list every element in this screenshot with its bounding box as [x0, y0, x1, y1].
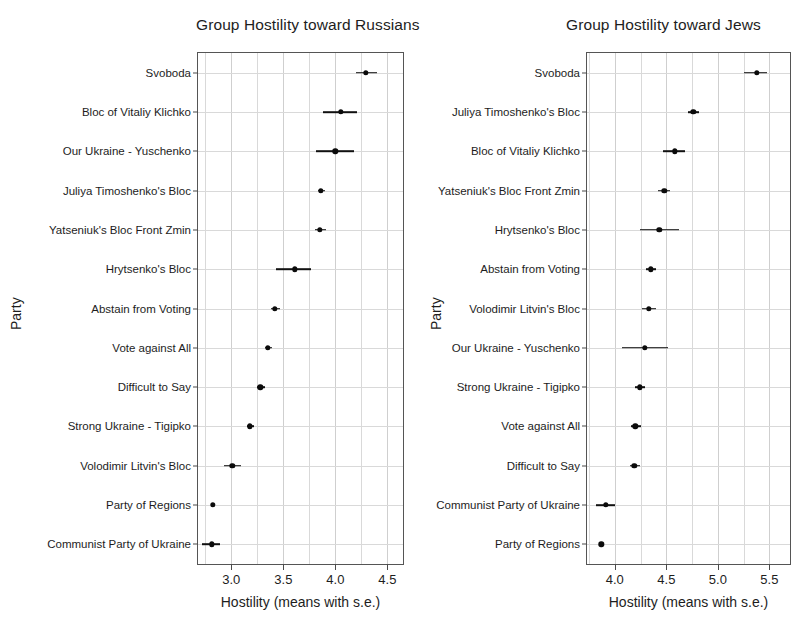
- x-axis-tick-label: 4.5: [378, 572, 396, 587]
- data-point: [209, 542, 214, 547]
- y-axis-tick: [193, 544, 198, 545]
- y-axis-tick: [582, 387, 587, 388]
- y-axis-tick-label: Party of Regions: [106, 499, 191, 511]
- x-axis-tick-label: 4.0: [326, 572, 344, 587]
- gridline-horizontal: [587, 466, 790, 467]
- y-axis-tick: [582, 426, 587, 427]
- y-axis-tick: [193, 308, 198, 309]
- x-axis-tick: [666, 564, 667, 570]
- y-axis-tick-label: Hrytsenko's Bloc: [106, 263, 191, 275]
- data-point: [333, 149, 338, 154]
- x-axis-tick-label: 3.5: [274, 572, 292, 587]
- y-axis-tick: [582, 111, 587, 112]
- gridline-horizontal: [587, 426, 790, 427]
- y-axis-tick: [582, 269, 587, 270]
- x-axis-tick: [283, 564, 284, 570]
- y-axis-tick: [582, 229, 587, 230]
- plot-area: Hostility (means with s.e.) SvobodaBloc …: [197, 52, 404, 565]
- data-point: [318, 188, 323, 193]
- y-axis-tick-label: Svoboda: [146, 67, 191, 79]
- gridline-horizontal: [587, 387, 790, 388]
- y-axis-tick: [582, 190, 587, 191]
- y-axis-tick: [193, 387, 198, 388]
- data-point: [690, 109, 695, 114]
- y-axis-tick-label: Strong Ukraine - Tigipko: [68, 420, 191, 432]
- y-axis-tick: [582, 505, 587, 506]
- gridline-horizontal: [587, 269, 790, 270]
- y-axis-tick-label: Hrytsenko's Bloc: [495, 224, 580, 236]
- gridline-horizontal: [198, 426, 403, 427]
- panel-title: Group Hostility toward Russians: [196, 16, 420, 34]
- y-axis-tick-label: Abstain from Voting: [91, 303, 191, 315]
- y-axis-tick-label: Yatseniuk's Bloc Front Zmin: [438, 185, 580, 197]
- y-axis-tick-label: Yatseniuk's Bloc Front Zmin: [49, 224, 191, 236]
- x-axis-title: Hostility (means with s.e.): [587, 594, 790, 610]
- x-axis-tick: [615, 564, 616, 570]
- data-point: [599, 542, 604, 547]
- data-point: [632, 463, 637, 468]
- data-point: [292, 266, 297, 271]
- data-point: [272, 306, 277, 311]
- y-axis-tick-label: Strong Ukraine - Tigipko: [457, 381, 580, 393]
- gridline-horizontal: [587, 348, 790, 349]
- x-axis-tick-label: 4.0: [606, 572, 624, 587]
- y-axis-title: Party: [428, 297, 444, 330]
- y-axis-tick-label: Svoboda: [535, 67, 580, 79]
- y-axis-tick-label: Communist Party of Ukraine: [436, 499, 580, 511]
- y-axis-tick-label: Difficult to Say: [118, 381, 191, 393]
- y-axis-tick: [193, 229, 198, 230]
- data-point: [265, 345, 270, 350]
- x-axis-tick-label: 3.0: [222, 572, 240, 587]
- gridline-horizontal: [587, 230, 790, 231]
- gridline-horizontal: [198, 230, 403, 231]
- y-axis-tick: [193, 111, 198, 112]
- y-axis-tick-label: Abstain from Voting: [480, 263, 580, 275]
- x-axis-tick-label: 5.0: [709, 572, 727, 587]
- y-axis-tick: [193, 505, 198, 506]
- y-axis-tick-label: Volodimir Litvin's Bloc: [469, 303, 580, 315]
- data-point: [603, 502, 608, 507]
- x-axis-tick-label: 4.5: [657, 572, 675, 587]
- gridline-horizontal: [198, 151, 403, 152]
- y-axis-tick-label: Communist Party of Ukraine: [47, 538, 191, 550]
- gridline-horizontal: [587, 191, 790, 192]
- figure-canvas: Group Hostility toward Russians Party Ho…: [0, 0, 811, 637]
- data-point: [363, 70, 368, 75]
- x-axis-tick: [718, 564, 719, 570]
- y-axis-tick: [582, 465, 587, 466]
- data-point: [646, 306, 651, 311]
- x-axis-tick: [231, 564, 232, 570]
- gridline-horizontal: [587, 151, 790, 152]
- plot-area: Hostility (means with s.e.) SvobodaJuliy…: [586, 52, 791, 565]
- gridline-horizontal: [587, 309, 790, 310]
- data-point: [258, 384, 263, 389]
- panel-hostility-jews: Group Hostility toward Jews Party Hostil…: [420, 0, 811, 637]
- gridline-horizontal: [198, 309, 403, 310]
- y-axis-tick: [582, 308, 587, 309]
- y-axis-tick-label: Difficult to Say: [507, 460, 580, 472]
- y-axis-tick: [582, 544, 587, 545]
- y-axis-tick-label: Vote against All: [112, 342, 191, 354]
- y-axis-tick: [193, 465, 198, 466]
- y-axis-tick: [193, 269, 198, 270]
- panel-hostility-russians: Group Hostility toward Russians Party Ho…: [0, 0, 420, 637]
- data-point: [210, 502, 215, 507]
- gridline-horizontal: [198, 191, 403, 192]
- x-axis-tick: [387, 564, 388, 570]
- data-point: [230, 463, 235, 468]
- y-axis-tick-label: Vote against All: [501, 420, 580, 432]
- gridline-horizontal: [198, 505, 403, 506]
- data-point: [317, 227, 322, 232]
- y-axis-tick-label: Juliya Timoshenko's Bloc: [452, 106, 580, 118]
- y-axis-tick-label: Bloc of Vitaliy Klichko: [471, 145, 580, 157]
- data-point: [672, 149, 677, 154]
- y-axis-tick-label: Bloc of Vitaliy Klichko: [82, 106, 191, 118]
- x-axis-tick: [769, 564, 770, 570]
- gridline-horizontal: [198, 348, 403, 349]
- y-axis-tick: [193, 347, 198, 348]
- y-axis-tick: [193, 190, 198, 191]
- x-axis-tick: [335, 564, 336, 570]
- y-axis-title: Party: [8, 297, 24, 330]
- y-axis-tick-label: Volodimir Litvin's Bloc: [80, 460, 191, 472]
- y-axis-tick: [193, 151, 198, 152]
